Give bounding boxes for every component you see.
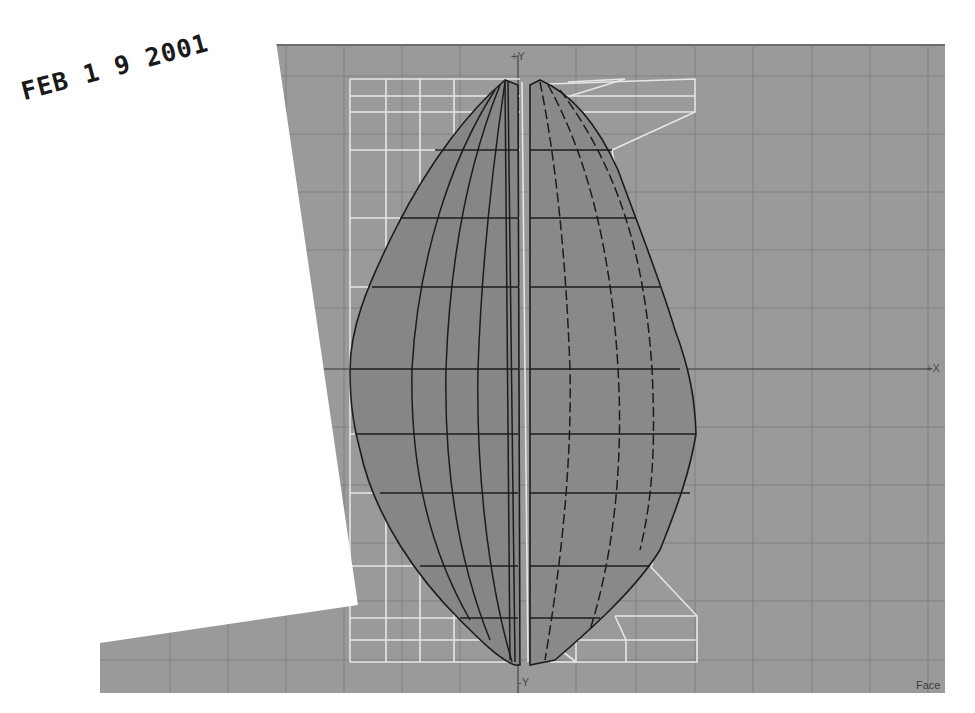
- viewport-canvas[interactable]: [0, 0, 975, 713]
- axis-label-neg-y: -Y: [518, 676, 529, 688]
- viewport-view-mode-label[interactable]: Face: [916, 679, 940, 691]
- axis-label-pos-x: +X: [926, 362, 940, 374]
- axis-label-pos-y: +Y: [511, 50, 525, 62]
- 3d-viewport[interactable]: +Y -Y +X Face: [0, 0, 975, 713]
